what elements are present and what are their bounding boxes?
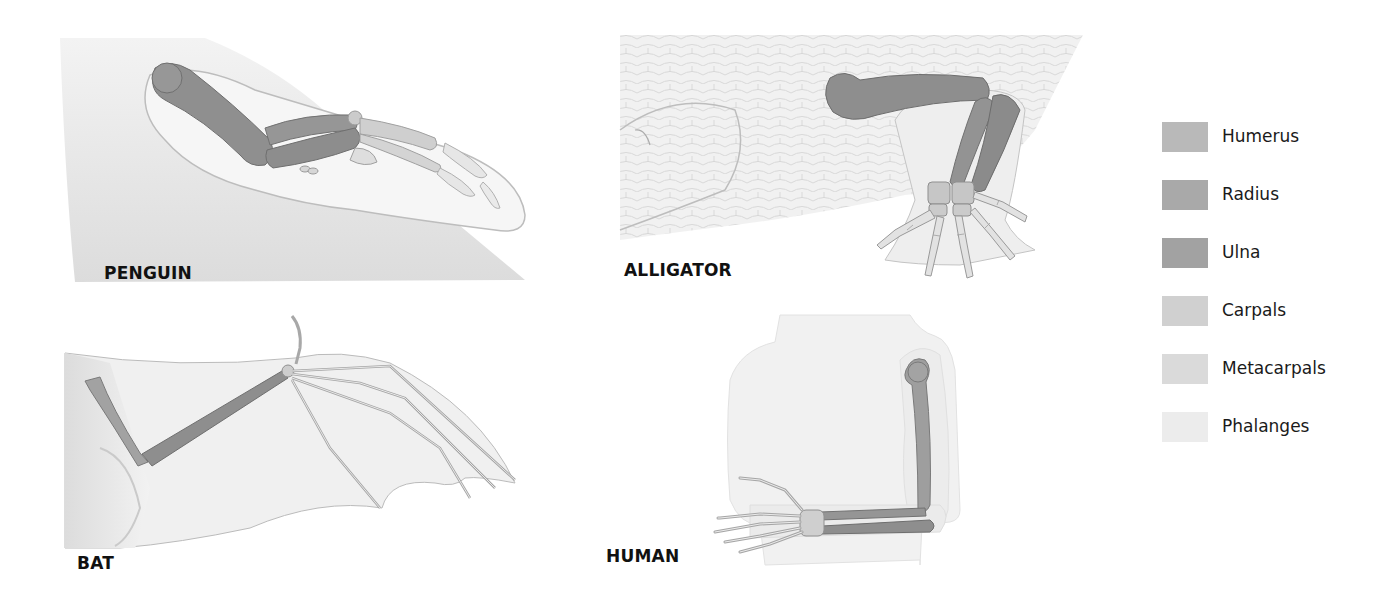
phalanges-swatch [1162, 412, 1208, 442]
legend-label: Phalanges [1222, 416, 1309, 436]
penguin-label: PENGUIN [104, 263, 192, 283]
bat-forelimb-illustration [60, 308, 530, 588]
legend-item-metacarpals: Metacarpals [1162, 354, 1382, 384]
legend-label: Carpals [1222, 300, 1286, 320]
legend-item-humerus: Humerus [1162, 122, 1382, 152]
legend-label: Ulna [1222, 242, 1260, 262]
legend-label: Humerus [1222, 126, 1299, 146]
alligator-forelimb-illustration [615, 30, 1095, 295]
carpals-swatch [1162, 296, 1208, 326]
ulna-swatch [1162, 238, 1208, 268]
bat-panel: BAT [60, 308, 530, 588]
radius-swatch [1162, 180, 1208, 210]
alligator-panel: ALLIGATOR [615, 30, 1095, 295]
human-panel: HUMAN [600, 310, 1080, 600]
legend-item-phalanges: Phalanges [1162, 412, 1382, 442]
metacarpals-swatch [1162, 354, 1208, 384]
alligator-label: ALLIGATOR [624, 260, 732, 280]
legend-label: Metacarpals [1222, 358, 1326, 378]
legend-item-ulna: Ulna [1162, 238, 1382, 268]
human-label: HUMAN [606, 546, 679, 566]
legend-label: Radius [1222, 184, 1279, 204]
legend-item-radius: Radius [1162, 180, 1382, 210]
penguin-panel: PENGUIN [55, 30, 535, 290]
humerus-swatch [1162, 122, 1208, 152]
legend-item-carpals: Carpals [1162, 296, 1382, 326]
penguin-forelimb-illustration [55, 30, 535, 290]
bat-label: BAT [77, 553, 114, 573]
